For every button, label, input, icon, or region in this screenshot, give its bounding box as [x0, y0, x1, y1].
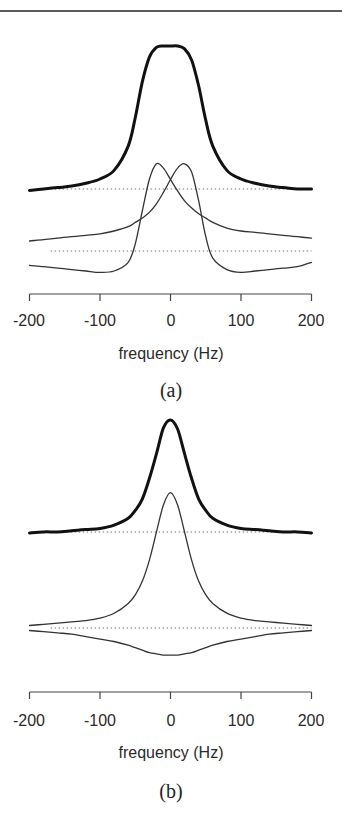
panel-b-tick-label: -100	[84, 712, 116, 730]
plot-area	[0, 0, 342, 836]
panel-a-total-spectrum-curve	[30, 46, 312, 191]
panel-b-tick-label: 0	[167, 712, 176, 730]
panel-b-component-curve-1	[30, 493, 312, 626]
panel-b-x-axis-title: frequency (Hz)	[119, 744, 224, 762]
panel-b-component-curve-2	[30, 631, 312, 656]
panel-b-tick-label: 100	[228, 712, 255, 730]
panel-a-tick-label: 0	[167, 312, 176, 330]
panel-a-x-axis-title: frequency (Hz)	[119, 345, 224, 363]
panel-a-label: (a)	[160, 379, 182, 402]
panel-b-label: (b)	[159, 780, 182, 803]
panel-a-tick-label: -200	[13, 312, 45, 330]
panel-a-component-curve-2	[30, 164, 312, 273]
panel-b-tick-label: -200	[13, 712, 45, 730]
panel-a-tick-label: -100	[84, 312, 116, 330]
figure: -200 -100 0 100 200 frequency (Hz) (a) -…	[0, 0, 342, 836]
panel-b-total-spectrum-curve	[30, 420, 312, 533]
panel-a-tick-label: 100	[228, 312, 255, 330]
panel-b-tick-label: 200	[298, 712, 325, 730]
panel-a-tick-label: 200	[298, 312, 325, 330]
